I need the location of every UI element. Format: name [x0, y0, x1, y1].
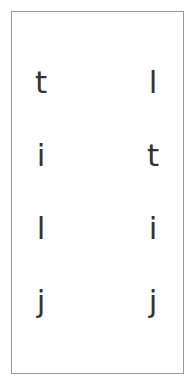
- letter-grid: t l i t l i j j: [12, 12, 185, 375]
- screenshot-canvas: t l i t l i j j: [0, 0, 195, 386]
- letter-grid-frame: t l i t l i j j: [11, 11, 184, 374]
